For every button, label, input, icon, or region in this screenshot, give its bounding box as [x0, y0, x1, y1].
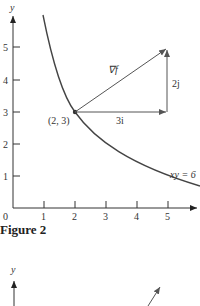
next-figure-y-label: y: [10, 264, 16, 275]
y-tick-2: 2: [3, 139, 8, 150]
x-tick-3: 3: [103, 211, 108, 222]
gradient-vector: [75, 49, 166, 112]
x-ticks: [44, 201, 168, 208]
next-figure-arrow: [148, 287, 160, 306]
vertical-label: 2j: [172, 78, 180, 89]
horizontal-label: 3i: [116, 115, 124, 126]
y-tick-4: 4: [3, 75, 8, 86]
y-tick-3: 3: [3, 107, 8, 118]
hyperbola-curve: [43, 15, 200, 186]
y-axis-label: y: [9, 2, 15, 13]
x-tick-5: 5: [165, 211, 170, 222]
y-tick-5: 5: [3, 42, 8, 53]
figure-2-diagram: y 5 4 3 2 1 0 1 2 3 4 5 xy = 6 (2, 3) ∇f…: [0, 0, 200, 306]
point-label: (2, 3): [48, 115, 70, 127]
gradient-label: ∇f: [108, 64, 119, 75]
y-ticks: [13, 47, 20, 176]
origin-label: 0: [3, 211, 8, 222]
x-tick-4: 4: [134, 211, 139, 222]
figure-caption: Figure 2: [0, 222, 46, 238]
x-tick-2: 2: [72, 211, 77, 222]
y-tick-1: 1: [3, 171, 8, 182]
x-tick-1: 1: [41, 211, 46, 222]
curve-label: xy = 6: [169, 169, 196, 180]
